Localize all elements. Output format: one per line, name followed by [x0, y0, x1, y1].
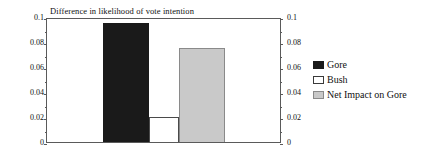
legend-swatch-icon [313, 76, 324, 84]
y-minor-tick-left [45, 132, 47, 133]
y-tick-mark-left [44, 94, 47, 95]
y-tick-mark-right [280, 119, 283, 120]
y-minor-tick-left [45, 57, 47, 58]
y-minor-tick-right [280, 107, 282, 108]
y-tick-label-left: 0 [6, 139, 44, 147]
chart-title: Difference in likelihood of vote intenti… [50, 6, 194, 16]
bar-net-impact-on-gore[interactable] [179, 48, 225, 142]
y-tick-label-right: 0.1 [287, 14, 325, 22]
legend-item-label: Gore [327, 59, 347, 70]
y-minor-tick-left [45, 82, 47, 83]
y-minor-tick-left [45, 32, 47, 33]
bar-gore[interactable] [103, 23, 149, 142]
y-minor-tick-right [280, 132, 282, 133]
y-minor-tick-right [280, 82, 282, 83]
plot-area [46, 18, 281, 143]
y-tick-label-left: 0.06 [6, 64, 44, 72]
y-tick-label-left: 0.02 [6, 114, 44, 122]
bar-bush[interactable] [149, 117, 179, 142]
y-axis-left: 00.020.040.060.080.1 [6, 18, 44, 143]
y-tick-mark-left [44, 144, 47, 145]
chart-legend: GoreBushNet Impact on Gore [313, 57, 438, 102]
y-minor-tick-right [280, 57, 282, 58]
y-tick-label-right: 0 [287, 139, 325, 147]
y-tick-mark-left [44, 44, 47, 45]
y-tick-mark-right [280, 44, 283, 45]
y-tick-mark-left [44, 119, 47, 120]
legend-item-label: Net Impact on Gore [327, 89, 407, 100]
legend-item[interactable]: Net Impact on Gore [313, 87, 438, 102]
y-tick-mark-left [44, 19, 47, 20]
y-minor-tick-right [280, 32, 282, 33]
y-tick-label-left: 0.08 [6, 39, 44, 47]
bar-chart: Difference in likelihood of vote intenti… [0, 0, 440, 163]
y-tick-mark-right [280, 94, 283, 95]
y-tick-mark-right [280, 69, 283, 70]
y-minor-tick-left [45, 107, 47, 108]
y-tick-label-left: 0.1 [6, 14, 44, 22]
y-tick-label-right: 0.02 [287, 114, 325, 122]
y-tick-label-left: 0.04 [6, 89, 44, 97]
y-tick-mark-left [44, 69, 47, 70]
legend-swatch-icon [313, 61, 324, 69]
y-tick-mark-right [280, 144, 283, 145]
legend-item[interactable]: Gore [313, 57, 438, 72]
legend-item[interactable]: Bush [313, 72, 438, 87]
y-tick-mark-right [280, 19, 283, 20]
legend-swatch-icon [313, 91, 324, 99]
y-tick-label-right: 0.08 [287, 39, 325, 47]
plot-inner [47, 19, 280, 142]
legend-item-label: Bush [327, 74, 348, 85]
